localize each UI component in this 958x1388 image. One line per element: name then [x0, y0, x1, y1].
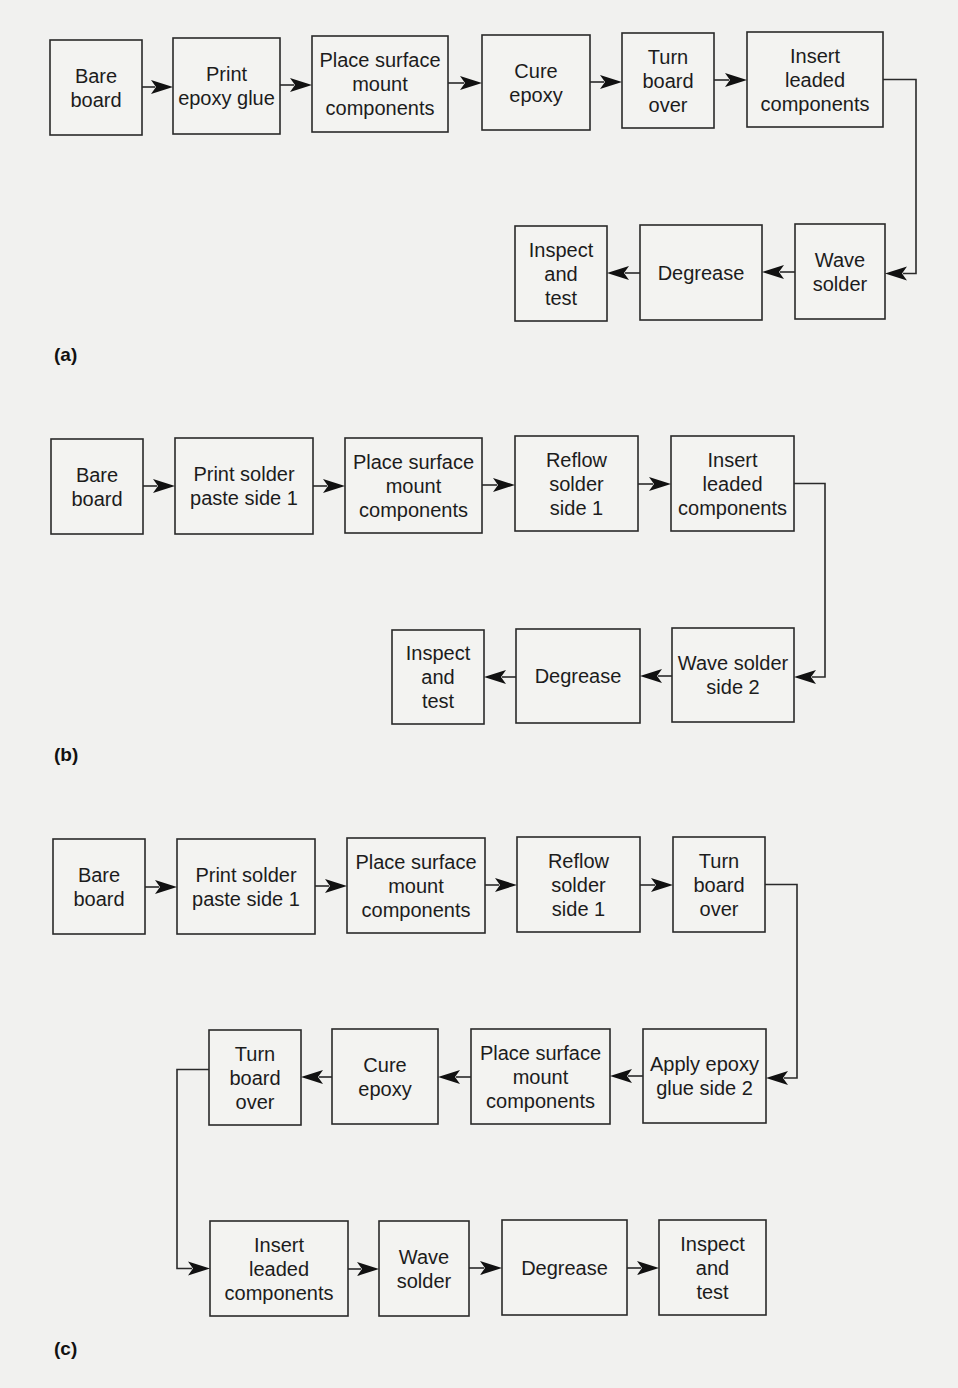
flow-arrow [607, 266, 640, 280]
flow-arrow [590, 75, 622, 89]
connector-line [794, 484, 825, 678]
step-label-line: Bare [78, 864, 120, 886]
step-box [51, 439, 143, 534]
step-label-line: Turn [235, 1043, 275, 1065]
step-place-smt: Place surfacemountcomponents [347, 838, 485, 933]
step-box [643, 1029, 766, 1123]
flow-arrow [448, 76, 482, 90]
step-label-line: Inspect [529, 239, 594, 261]
flow-arrow [638, 477, 671, 491]
step-print-solder-paste: Print solderpaste side 1 [177, 839, 315, 934]
step-cure-epoxy: Cureepoxy [332, 1029, 438, 1124]
step-box [672, 628, 794, 722]
step-reflow-solder: Reflowsolderside 1 [517, 837, 640, 932]
step-label-line: Degrease [658, 262, 745, 284]
step-label-line: over [700, 898, 739, 920]
step-label-line: Turn [648, 46, 688, 68]
step-label-line: Place surface [480, 1042, 601, 1064]
connector-line [177, 1070, 209, 1269]
step-label-line: components [326, 97, 435, 119]
step-insert-leaded: Insertleadedcomponents [747, 32, 883, 127]
step-label-line: components [678, 497, 787, 519]
step-label-line: Apply epoxy [650, 1053, 759, 1075]
step-label-line: and [544, 263, 577, 285]
step-label-line: Reflow [548, 850, 610, 872]
flow-arrow [145, 880, 177, 894]
flow-arrow [627, 1261, 659, 1275]
step-label-line: components [359, 499, 468, 521]
step-label-line: glue side 2 [656, 1077, 753, 1099]
step-label-line: paste side 1 [190, 487, 298, 509]
step-label-line: and [696, 1257, 729, 1279]
step-place-smt-2: Place surfacemountcomponents [471, 1029, 610, 1124]
step-label-line: mount [513, 1066, 569, 1088]
step-label-line: Insert [790, 45, 840, 67]
step-label-line: side 1 [552, 898, 605, 920]
step-label-line: leaded [702, 473, 762, 495]
step-label-line: Inspect [406, 642, 471, 664]
panel-b-label: (b) [54, 744, 78, 765]
flow-arrow [714, 73, 747, 87]
step-label-line: Place surface [355, 851, 476, 873]
step-label-line: board [642, 70, 693, 92]
panel-a-label: (a) [54, 344, 77, 365]
step-label-line: epoxy glue [178, 87, 275, 109]
step-insert-leaded: Insertleadedcomponents [671, 436, 794, 531]
panel-c-label: (c) [54, 1338, 77, 1359]
step-label-line: components [486, 1090, 595, 1112]
flow-arrow [485, 878, 517, 892]
connector-line [765, 885, 797, 1079]
step-label-line: test [696, 1281, 729, 1303]
step-label-line: solder [397, 1270, 452, 1292]
step-label-line: Print solder [195, 864, 296, 886]
step-label-line: board [70, 89, 121, 111]
step-label-line: Place surface [353, 451, 474, 473]
step-box [379, 1221, 469, 1316]
step-wave-solder: Wavesolder [379, 1221, 469, 1316]
step-label-line: test [545, 287, 578, 309]
step-turn-board-over: Turnboardover [622, 33, 714, 128]
panel-b-flow: BareboardPrint solderpaste side 1Place s… [51, 436, 825, 724]
step-box [482, 35, 590, 130]
step-label-line: Cure [363, 1054, 406, 1076]
step-box [173, 38, 280, 134]
step-degrease: Degrease [640, 225, 762, 320]
step-label-line: mount [352, 73, 408, 95]
step-label-line: over [236, 1091, 275, 1113]
step-label-line: Degrease [535, 665, 622, 687]
flow-arrow [348, 1262, 379, 1276]
step-label-line: Inspect [680, 1233, 745, 1255]
step-label-line: Reflow [546, 449, 608, 471]
step-bare-board: Bareboard [53, 839, 145, 934]
step-box [332, 1029, 438, 1124]
step-label-line: Cure [514, 60, 557, 82]
process-flow-diagram: BareboardPrintepoxy gluePlace surfacemou… [0, 0, 958, 1388]
step-box [175, 438, 313, 534]
step-label-line: Wave solder [678, 652, 789, 674]
step-label-line: side 1 [550, 497, 603, 519]
step-box [50, 40, 142, 135]
step-label-line: leaded [249, 1258, 309, 1280]
step-place-smt: Place surfacemountcomponents [312, 36, 448, 132]
step-bare-board: Bareboard [50, 40, 142, 135]
step-label-line: over [649, 94, 688, 116]
step-label-line: components [761, 93, 870, 115]
flow-arrow [482, 478, 515, 492]
step-label-line: Degrease [521, 1257, 608, 1279]
step-label-line: epoxy [509, 84, 562, 106]
step-turn-board-over: Turnboardover [673, 837, 765, 932]
step-label-line: board [73, 888, 124, 910]
flow-arrow [640, 669, 672, 683]
step-place-smt: Place surfacemountcomponents [345, 438, 482, 533]
step-degrease: Degrease [502, 1220, 627, 1315]
step-label-line: Insert [707, 449, 757, 471]
step-print-solder-paste: Print solderpaste side 1 [175, 438, 313, 534]
step-label-line: paste side 1 [192, 888, 300, 910]
flow-arrow [762, 265, 795, 279]
step-wave-solder: Wavesolder [795, 224, 885, 319]
step-label-line: Bare [75, 65, 117, 87]
step-label-line: solder [813, 273, 868, 295]
flow-arrow [883, 80, 916, 281]
step-label-line: Wave [399, 1246, 449, 1268]
flow-arrow [280, 78, 312, 92]
